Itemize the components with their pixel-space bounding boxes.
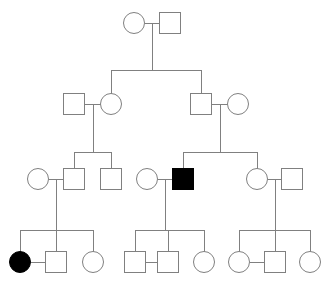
individual-iv-1-female-affected[interactable] xyxy=(10,252,31,273)
individual-ii-4-female-unaffected[interactable] xyxy=(228,94,249,115)
individual-iii-1-female-unaffected[interactable] xyxy=(28,169,49,190)
individual-iii-6-female-unaffected[interactable] xyxy=(247,169,268,190)
individual-ii-1-male-unaffected[interactable] xyxy=(64,94,85,115)
individual-iv-2-male-unaffected[interactable] xyxy=(46,252,67,273)
individual-iv-8-male-unaffected[interactable] xyxy=(265,252,286,273)
individual-iii-4-female-unaffected[interactable] xyxy=(137,169,158,190)
individual-i-1-female-unaffected[interactable] xyxy=(124,13,145,34)
individual-iv-9-female-unaffected[interactable] xyxy=(300,252,321,273)
individual-iv-4-male-unaffected[interactable] xyxy=(125,252,146,273)
individual-iii-2-male-unaffected[interactable] xyxy=(64,169,85,190)
individual-ii-2-female-unaffected[interactable] xyxy=(101,94,122,115)
individual-iii-7-male-unaffected[interactable] xyxy=(282,169,303,190)
individual-i-2-male-unaffected[interactable] xyxy=(160,13,181,34)
pedigree-canvas xyxy=(0,0,330,282)
pedigree-chart xyxy=(0,0,330,282)
individual-iv-7-female-unaffected[interactable] xyxy=(229,252,250,273)
individual-iv-3-female-unaffected[interactable] xyxy=(83,252,104,273)
connector-lines-layer xyxy=(20,23,310,262)
individual-ii-3-male-unaffected[interactable] xyxy=(191,94,212,115)
individual-iii-3-male-unaffected[interactable] xyxy=(101,169,122,190)
individual-iv-6-female-unaffected[interactable] xyxy=(194,252,215,273)
individual-iii-5-male-affected[interactable] xyxy=(173,169,194,190)
individual-iv-5-male-unaffected[interactable] xyxy=(158,252,179,273)
